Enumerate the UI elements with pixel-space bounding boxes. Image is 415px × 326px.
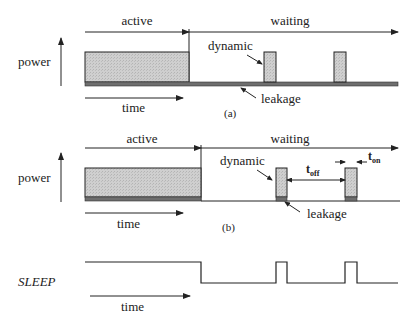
panel-b-caption: (b) <box>222 221 235 234</box>
time-axis-label: time <box>122 100 145 115</box>
active-leakage-strip <box>85 197 201 201</box>
dynamic-label: dynamic <box>220 153 265 168</box>
active-label: active <box>126 131 157 146</box>
waiting-label: waiting <box>271 131 310 146</box>
leakage-pointer-arrow <box>285 202 300 212</box>
t-on-label: ton <box>368 149 381 165</box>
t-off-label: toff <box>306 162 320 178</box>
dynamic-pulse-1 <box>264 52 276 82</box>
active-dynamic-power-block <box>85 52 189 82</box>
dynamic-pulse-1 <box>276 168 287 197</box>
dynamic-pointer-arrow <box>257 170 272 180</box>
leakage-pulse-2 <box>345 197 357 201</box>
leakage-power-bar <box>85 82 398 86</box>
dynamic-label: dynamic <box>208 38 253 53</box>
sleep-waveform <box>85 262 398 283</box>
waiting-label: waiting <box>271 13 310 28</box>
power-axis-label: power <box>18 54 51 69</box>
panel-a-caption: (a) <box>224 107 237 120</box>
dynamic-pointer-arrow <box>247 55 262 64</box>
sleep-signal-label: SLEEP <box>18 274 56 289</box>
leakage-label: leakage <box>261 91 301 106</box>
dynamic-pulse-2 <box>334 52 346 82</box>
leakage-pulse-1 <box>276 197 287 201</box>
power-axis-label: power <box>18 170 51 185</box>
leakage-pointer-arrow <box>241 88 256 98</box>
panel-b: active waiting power dynamic leakage tof… <box>18 131 400 234</box>
active-dynamic-power-block <box>85 168 201 197</box>
sleep-signal-panel: SLEEP time <box>18 262 398 314</box>
panel-a: active waiting power dynamic leakage tim… <box>18 13 398 120</box>
leakage-label: leakage <box>307 206 347 221</box>
dynamic-pulse-2 <box>345 168 357 197</box>
active-label: active <box>121 13 152 28</box>
power-timing-diagram: active waiting power dynamic leakage tim… <box>0 0 415 326</box>
time-axis-label: time <box>117 216 140 231</box>
time-axis-label: time <box>121 299 144 314</box>
